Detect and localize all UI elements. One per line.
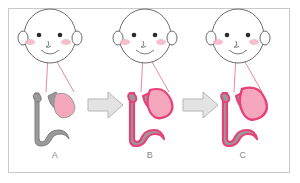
panel-label-a: A (8, 150, 102, 160)
figure-canvas: A B C (0, 0, 300, 183)
arrow-right-icon-1 (85, 88, 127, 122)
panel-c-illustration (196, 0, 290, 165)
infant-face-icon-c (206, 9, 270, 63)
panel-c (196, 0, 290, 165)
anatomy-structure-a (33, 92, 75, 146)
infant-face-icon-a (18, 9, 82, 63)
panel-label-b: B (103, 150, 197, 160)
panel-a-illustration (8, 0, 102, 165)
arrow-right-icon-2 (180, 88, 222, 122)
panel-b (103, 0, 197, 165)
anatomy-structure-c (221, 88, 267, 146)
panel-a (8, 0, 102, 165)
panel-label-c: C (196, 150, 290, 160)
anatomy-structure-b (128, 89, 172, 146)
panel-b-illustration (103, 0, 197, 165)
infant-face-icon-b (113, 9, 177, 63)
